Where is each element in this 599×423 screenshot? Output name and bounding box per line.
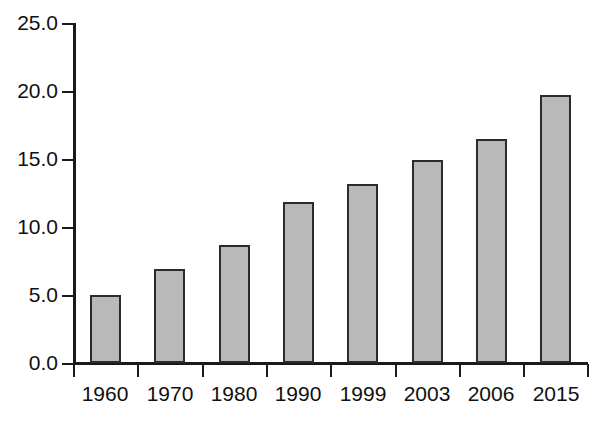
x-axis-tick-5 xyxy=(395,364,397,377)
bar-2015 xyxy=(540,95,571,363)
bar-1960 xyxy=(90,295,121,363)
y-axis-tick-15 xyxy=(62,159,74,161)
y-axis-tick-10 xyxy=(62,227,74,229)
x-axis-tick-2 xyxy=(202,364,204,377)
y-axis-tick-5 xyxy=(62,295,74,297)
y-axis-tick-20 xyxy=(62,91,74,93)
y-axis-label-10: 10.0 xyxy=(0,216,58,237)
y-axis-label-0: 0.0 xyxy=(0,352,58,373)
y-axis-tick-25 xyxy=(62,23,74,25)
bar-chart: 25.0 20.0 15.0 10.0 5.0 0.0 1960 1970 19… xyxy=(0,0,599,423)
y-axis-line xyxy=(73,23,76,364)
x-axis-tick-6 xyxy=(459,364,461,377)
bar-1980 xyxy=(219,245,250,363)
x-axis-label-2015: 2015 xyxy=(516,383,596,404)
y-axis-label-20: 20.0 xyxy=(0,80,58,101)
y-axis-label-15: 15.0 xyxy=(0,148,58,169)
bar-1970 xyxy=(154,269,185,363)
bar-2006 xyxy=(476,139,507,363)
bar-1990 xyxy=(283,202,314,363)
x-axis-tick-0 xyxy=(73,364,75,377)
x-axis-tick-3 xyxy=(266,364,268,377)
x-axis-tick-1 xyxy=(137,364,139,377)
x-axis-tick-8 xyxy=(587,364,589,377)
y-axis-label-5: 5.0 xyxy=(0,284,58,305)
bar-1999 xyxy=(347,184,378,363)
bar-2003 xyxy=(412,160,443,363)
y-axis-label-25: 25.0 xyxy=(0,12,58,33)
x-axis-tick-4 xyxy=(330,364,332,377)
x-axis-tick-7 xyxy=(523,364,525,377)
